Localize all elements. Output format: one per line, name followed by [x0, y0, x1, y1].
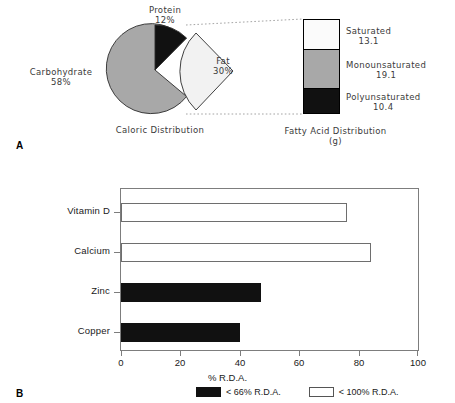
stack-label-saturated: Saturated 13.1 — [346, 26, 391, 46]
pie-label-protein-name: Protein — [149, 5, 181, 15]
bar-vitamin-d — [121, 203, 347, 222]
x-label-0: 0 — [101, 357, 141, 368]
y-tick-zinc — [114, 292, 121, 293]
stack-label-saturated-name: Saturated — [346, 26, 391, 36]
rda-bar-chart-plot-area — [120, 188, 419, 351]
x-label-80: 80 — [339, 357, 379, 368]
stack-caption: Fatty Acid Distribution (g) — [258, 127, 413, 147]
pie-label-fat: Fat 30% — [203, 57, 243, 77]
y-label-copper: Copper — [0, 325, 110, 336]
x-axis-title: % R.D.A. — [0, 372, 455, 383]
stack-segment-saturated — [304, 20, 339, 49]
x-tick-40 — [240, 350, 241, 356]
stack-label-monounsaturated-name: Monounsaturated — [346, 60, 426, 70]
bar-zinc — [121, 283, 261, 302]
stack-segment-monounsaturated — [304, 49, 339, 89]
pie-label-protein: Protein 12% — [130, 6, 200, 26]
stack-caption-text: Fatty Acid Distribution — [284, 126, 386, 136]
x-tick-100 — [417, 350, 418, 356]
y-tick-copper — [114, 332, 121, 333]
x-tick-80 — [359, 350, 360, 356]
stack-label-polyunsaturated-name: Polyunsaturated — [346, 92, 420, 102]
pie-label-carbohydrate-name: Carbohydrate — [30, 67, 93, 77]
legend-label-light: < 100% R.D.A. — [339, 387, 399, 397]
stack-label-polyunsaturated: Polyunsaturated 10.4 — [346, 92, 420, 112]
stack-caption-unit: (g) — [329, 136, 342, 146]
bar-copper — [121, 323, 240, 342]
x-label-40: 40 — [220, 357, 260, 368]
y-label-vitamin-d: Vitamin D — [0, 205, 110, 216]
pie-label-carbohydrate-value: 58% — [51, 77, 71, 87]
stack-label-monounsaturated: Monounsaturated 19.1 — [346, 60, 426, 80]
x-label-100: 100 — [398, 357, 438, 368]
x-tick-0 — [121, 350, 122, 356]
y-label-zinc: Zinc — [0, 285, 110, 296]
pie-label-protein-value: 12% — [155, 15, 175, 25]
y-tick-vitamin-d — [114, 212, 121, 213]
pie-label-carbohydrate: Carbohydrate 58% — [18, 68, 104, 88]
legend-swatch-dark — [196, 387, 221, 397]
legend-label-dark: < 66% R.D.A. — [226, 387, 281, 397]
legend-swatch-light — [309, 387, 334, 397]
stack-label-polyunsaturated-value: 10.4 — [346, 102, 420, 112]
y-tick-calcium — [114, 252, 121, 253]
fatty-acid-stacked-bar — [303, 19, 340, 114]
pie-label-fat-name: Fat — [216, 56, 230, 66]
stack-label-saturated-value: 13.1 — [346, 36, 391, 46]
pie-label-fat-value: 30% — [213, 66, 233, 76]
x-tick-20 — [180, 350, 181, 356]
stack-label-monounsaturated-value: 19.1 — [346, 70, 426, 80]
x-label-20: 20 — [160, 357, 200, 368]
y-label-calcium: Calcium — [0, 245, 110, 256]
x-tick-60 — [299, 350, 300, 356]
stack-segment-polyunsaturated — [304, 89, 339, 113]
x-label-60: 60 — [279, 357, 319, 368]
bar-calcium — [121, 243, 371, 262]
rda-legend: < 66% R.D.A. < 100% R.D.A. — [196, 387, 399, 397]
pie-caption: Caloric Distribution — [95, 126, 225, 136]
panel-letter-b: B — [16, 388, 23, 399]
